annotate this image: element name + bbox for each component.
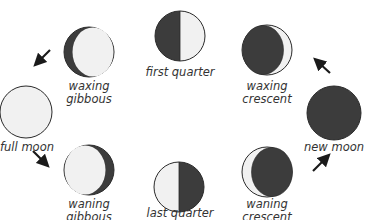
last-quarter-moon-icon bbox=[154, 162, 204, 212]
waning-crescent-label: waning crescent bbox=[242, 198, 291, 220]
waxing-gibbous-moon-icon bbox=[64, 27, 114, 77]
arrow-up-right-icon bbox=[313, 158, 326, 171]
new-moon-icon bbox=[307, 86, 361, 140]
waxing-crescent-label: waxing crescent bbox=[242, 80, 291, 106]
waxing-crescent-moon-icon bbox=[242, 25, 292, 75]
full-moon-label: full moon bbox=[0, 141, 54, 154]
moon-phases-diagram: first quarter waxing crescent new moon w… bbox=[0, 0, 365, 220]
moon-phases-svg bbox=[0, 0, 365, 220]
full-moon-icon bbox=[0, 86, 52, 138]
last-quarter-label: last quarter bbox=[146, 207, 213, 220]
arrow-up-left-icon bbox=[318, 62, 330, 73]
waning-gibbous-label: waning gibbous bbox=[66, 198, 111, 220]
waning-gibbous-moon-icon bbox=[64, 145, 114, 195]
new-moon-label: new moon bbox=[304, 141, 364, 154]
first-quarter-label: first quarter bbox=[146, 66, 215, 79]
waning-crescent-moon-icon bbox=[242, 147, 293, 197]
arrow-down-left-icon bbox=[38, 50, 50, 62]
waxing-gibbous-label: waxing gibbous bbox=[66, 80, 111, 106]
first-quarter-moon-icon bbox=[155, 11, 205, 61]
